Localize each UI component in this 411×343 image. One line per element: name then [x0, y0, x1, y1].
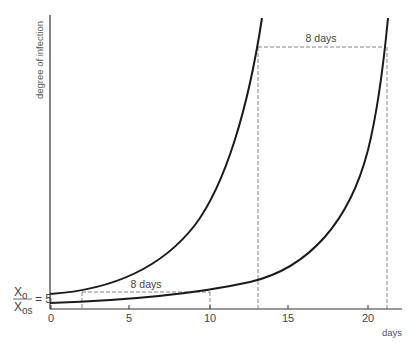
- svg-text:= 5: = 5: [35, 292, 52, 306]
- x-tick-label-5: 5: [126, 312, 132, 324]
- svg-text:Xos: Xos: [14, 300, 33, 316]
- upper-curve: [50, 18, 262, 294]
- ratio-annotation: Xo Xos = 5: [13, 285, 52, 316]
- lower-curve: [50, 18, 388, 303]
- y-axis-title: degree of infection: [34, 21, 45, 99]
- x-tick-label-0: 0: [48, 312, 54, 324]
- guide-lines: [82, 47, 387, 309]
- infection-delay-chart: 0 5 10 15 20 days degree of infection 8 …: [0, 0, 411, 343]
- x-tick-label-15: 15: [282, 312, 294, 324]
- delay-label-high: 8 days: [306, 32, 337, 44]
- x-tick-label-10: 10: [204, 312, 216, 324]
- x-tick-label-20: 20: [362, 312, 374, 324]
- x-axis-title: days: [382, 327, 402, 338]
- delay-label-low: 8 days: [131, 278, 162, 290]
